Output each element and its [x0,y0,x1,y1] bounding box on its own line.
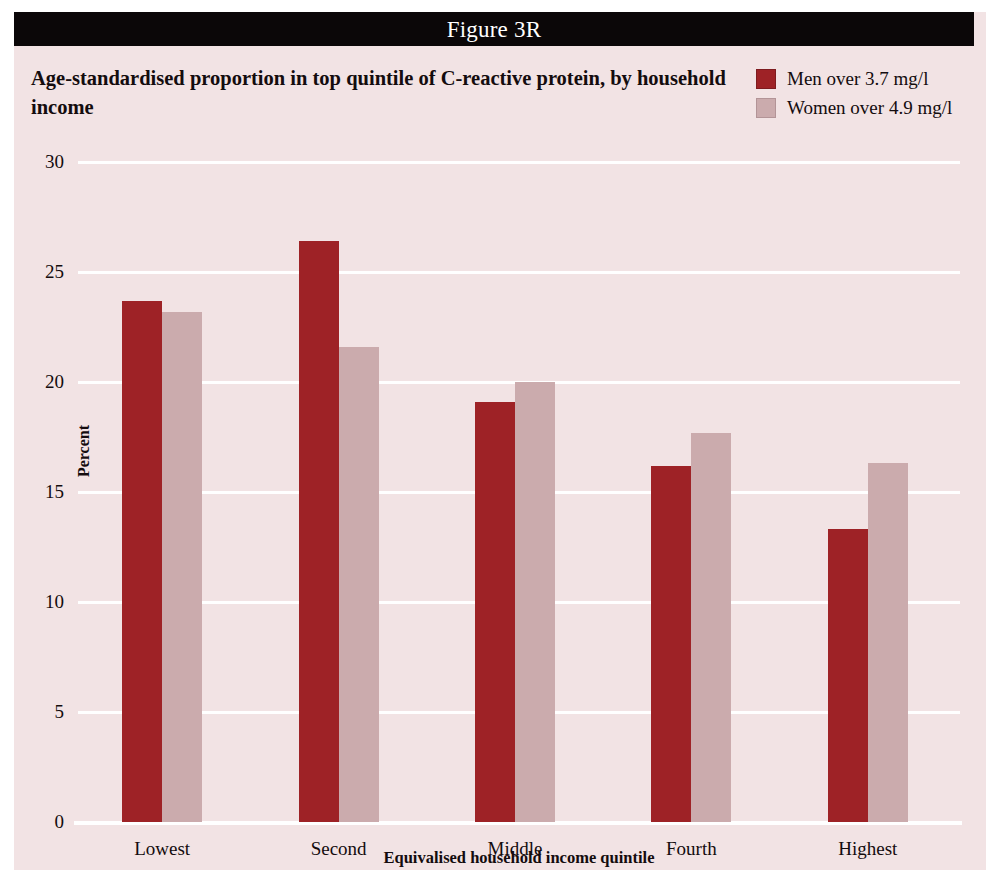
page-margin-left [0,0,14,876]
legend-swatch-women-icon [756,98,776,118]
gridline [78,161,960,164]
plot-area: 051015202530LowestSecondMiddleFourthHigh… [78,162,960,822]
y-tick-label: 0 [55,811,65,833]
bar-women-lowest [162,312,202,822]
bar-men-second [299,241,339,822]
gridline [78,271,960,274]
bar-women-fourth [691,433,731,822]
chart-legend: Men over 3.7 mg/l Women over 4.9 mg/l [756,64,986,122]
plot-wrapper: Percent 051015202530LowestSecondMiddleFo… [14,142,974,870]
page-margin-bottom [0,870,986,876]
legend-item-women: Women over 4.9 mg/l [756,93,986,122]
y-tick-label: 30 [45,151,64,173]
figure-label: Figure 3R [447,18,541,41]
title-legend-row: Age-standardised proportion in top quint… [14,50,974,142]
chart-title: Age-standardised proportion in top quint… [31,64,731,122]
figure-header-band: Figure 3R [14,12,974,46]
bar-men-middle [475,402,515,822]
legend-swatch-men-icon [756,69,776,89]
y-tick-label: 5 [55,701,65,723]
bar-men-highest [828,529,868,822]
page-margin-top [0,0,986,12]
legend-label-men: Men over 3.7 mg/l [787,68,928,90]
bar-men-lowest [122,301,162,822]
bar-women-second [339,347,379,822]
bar-women-middle [515,382,555,822]
y-tick-label: 10 [45,591,64,613]
bar-men-fourth [651,466,691,822]
legend-label-women: Women over 4.9 mg/l [787,97,952,119]
y-tick-label: 25 [45,261,64,283]
legend-item-men: Men over 3.7 mg/l [756,64,986,93]
figure-3r-chart: Figure 3R Age-standardised proportion in… [0,0,986,876]
x-axis-title: Equivalised household income quintile [78,848,960,868]
bar-women-highest [868,463,908,822]
y-tick-label: 20 [45,371,64,393]
y-tick-label: 15 [45,481,64,503]
